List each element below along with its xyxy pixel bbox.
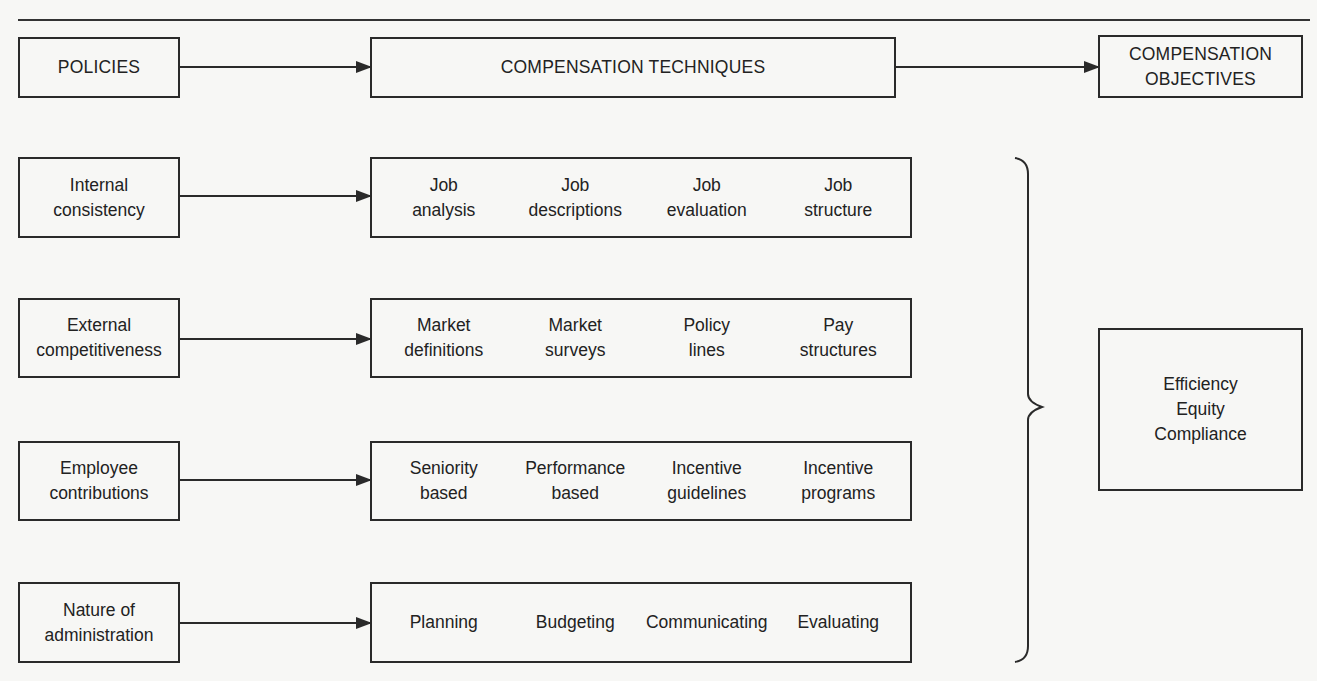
techniques-header-label: COMPENSATION TECHNIQUES xyxy=(501,55,766,80)
technique-item: Seniority based xyxy=(378,456,510,506)
technique-box-row-4: Planning Budgeting Communicating Evaluat… xyxy=(370,582,912,663)
policy-label: External competitiveness xyxy=(36,313,161,363)
objectives-header-box: COMPENSATION OBJECTIVES xyxy=(1098,35,1303,98)
arrow-policies-to-techniques xyxy=(180,66,370,68)
objectives-header-label: COMPENSATION OBJECTIVES xyxy=(1129,42,1272,92)
technique-item: Planning xyxy=(378,610,510,635)
objectives-box: Efficiency Equity Compliance xyxy=(1098,328,1303,491)
technique-item: Job structure xyxy=(773,173,905,223)
curly-brace-icon xyxy=(1000,150,1060,670)
technique-item: Job analysis xyxy=(378,173,510,223)
arrow-row-1 xyxy=(180,195,370,197)
policy-label: Internal consistency xyxy=(53,173,144,223)
arrow-row-4 xyxy=(180,622,370,624)
policies-header-label: POLICIES xyxy=(58,55,140,80)
objectives-label: Efficiency Equity Compliance xyxy=(1154,372,1246,447)
policies-header-box: POLICIES xyxy=(18,37,180,98)
policy-box-nature-of-administration: Nature of administration xyxy=(18,582,180,663)
technique-item: Performance based xyxy=(510,456,642,506)
arrow-row-3 xyxy=(180,479,370,481)
technique-item: Pay structures xyxy=(773,313,905,363)
technique-item: Market surveys xyxy=(510,313,642,363)
technique-item: Incentive programs xyxy=(773,456,905,506)
technique-item: Job descriptions xyxy=(510,173,642,223)
technique-item: Communicating xyxy=(641,610,773,635)
policy-box-internal-consistency: Internal consistency xyxy=(18,157,180,238)
technique-item: Budgeting xyxy=(510,610,642,635)
technique-box-row-3: Seniority based Performance based Incent… xyxy=(370,441,912,521)
arrow-techniques-to-objectives xyxy=(896,66,1098,68)
policy-box-employee-contributions: Employee contributions xyxy=(18,441,180,521)
techniques-header-box: COMPENSATION TECHNIQUES xyxy=(370,37,896,98)
arrow-row-2 xyxy=(180,338,370,340)
technique-item: Policy lines xyxy=(641,313,773,363)
policy-label: Nature of administration xyxy=(45,598,154,648)
top-rule xyxy=(18,19,1310,21)
technique-item: Incentive guidelines xyxy=(641,456,773,506)
technique-item: Market definitions xyxy=(378,313,510,363)
technique-item: Job evaluation xyxy=(641,173,773,223)
technique-box-row-2: Market definitions Market surveys Policy… xyxy=(370,298,912,378)
policy-box-external-competitiveness: External competitiveness xyxy=(18,298,180,378)
policy-label: Employee contributions xyxy=(49,456,148,506)
technique-box-row-1: Job analysis Job descriptions Job evalua… xyxy=(370,157,912,238)
technique-item: Evaluating xyxy=(773,610,905,635)
